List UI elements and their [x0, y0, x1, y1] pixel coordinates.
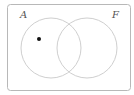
set-f-label: F [111, 9, 120, 20]
element-dot [37, 37, 41, 41]
set-a-label: A [19, 9, 27, 20]
venn-diagram: A F [0, 0, 134, 95]
